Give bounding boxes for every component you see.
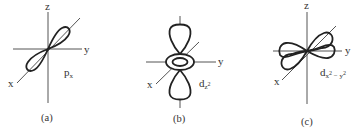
panel-b-caption: (b) <box>173 113 185 124</box>
panel-c-orbital-label: dx2 − y2 <box>320 67 346 80</box>
panel-a-x-label: x <box>8 78 14 89</box>
panel-a-y-label: y <box>84 44 90 55</box>
lobe-lower <box>169 70 190 100</box>
panel-a-axes <box>13 12 82 103</box>
dz2-orbital <box>166 25 194 100</box>
panel-b-orbital-label: dz2 <box>199 78 211 91</box>
lobe-positive <box>48 27 70 49</box>
panel-c-caption: (c) <box>301 116 313 127</box>
panel-c-x-label: x <box>274 76 280 87</box>
panel-b-y-label: y <box>218 56 224 67</box>
panel-a-caption: (a) <box>41 112 53 123</box>
lobe-upper <box>169 25 190 55</box>
panel-a-orbital-label: px <box>64 67 73 80</box>
panel-c-y-label: y <box>345 45 351 56</box>
torus-inner <box>173 58 188 66</box>
lobe-negative <box>26 49 48 71</box>
lobe-right <box>307 45 335 58</box>
panel-b-x-label: x <box>147 79 153 90</box>
lobe-left <box>279 43 307 57</box>
panel-a-z-label: z <box>45 1 50 12</box>
panel-c-z-label: z <box>304 0 309 11</box>
